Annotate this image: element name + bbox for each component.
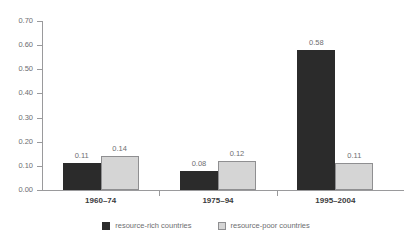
legend-item-label: resource-poor countries	[231, 222, 310, 230]
category-label: 1960–74	[41, 196, 161, 206]
bar-value-label: 0.11	[63, 152, 101, 160]
y-axis-tick-label: 0.30	[0, 114, 33, 122]
x-axis-line	[42, 190, 404, 191]
plot-area: 0.110.140.080.120.580.11	[42, 21, 394, 190]
y-axis-tick-label: 0.70	[0, 17, 33, 25]
y-axis-tick-label: 0.60	[0, 41, 33, 49]
bar-value-label: 0.12	[218, 150, 256, 158]
legend-item-label: resource-rich countries	[115, 222, 191, 230]
category-label: 1975–94	[158, 196, 278, 206]
y-axis-tick-label: 0.40	[0, 89, 33, 97]
legend-item: resource-rich countries	[102, 222, 191, 230]
bar-value-label: 0.58	[297, 39, 335, 47]
bar-value-label: 0.11	[335, 152, 373, 160]
chart-legend: resource-rich countriesresource-poor cou…	[0, 222, 412, 230]
y-axis-tick-label: 0.00	[0, 186, 33, 194]
y-axis-tick-label: 0.20	[0, 138, 33, 146]
bar	[297, 50, 335, 190]
bar	[218, 161, 256, 190]
light-square-icon	[218, 222, 226, 230]
bar	[63, 163, 101, 190]
y-axis-tick-label: 0.10	[0, 162, 33, 170]
legend-item: resource-poor countries	[218, 222, 310, 230]
dark-square-icon	[102, 222, 110, 230]
bar	[101, 156, 139, 190]
bar-value-label: 0.14	[101, 145, 139, 153]
y-axis-tick-label: 0.50	[0, 65, 33, 73]
bar-chart: 0.700.600.500.400.300.200.100.00 0.110.1…	[0, 0, 412, 245]
bar-value-label: 0.08	[180, 160, 218, 168]
bar	[335, 163, 373, 190]
category-label: 1995–2004	[275, 196, 395, 206]
bar	[180, 171, 218, 190]
y-axis-tick	[37, 190, 42, 191]
